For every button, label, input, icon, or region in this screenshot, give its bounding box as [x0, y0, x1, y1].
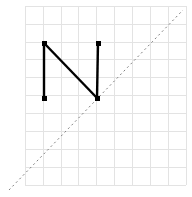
right-vertical-stroke [97, 43, 98, 98]
top-left-vertex [42, 41, 47, 46]
plot-figure [0, 0, 192, 197]
top-right-vertex [96, 41, 101, 46]
plot-canvas [0, 0, 192, 197]
bottom-left-vertex [42, 96, 47, 101]
bottom-right-vertex [95, 96, 100, 101]
